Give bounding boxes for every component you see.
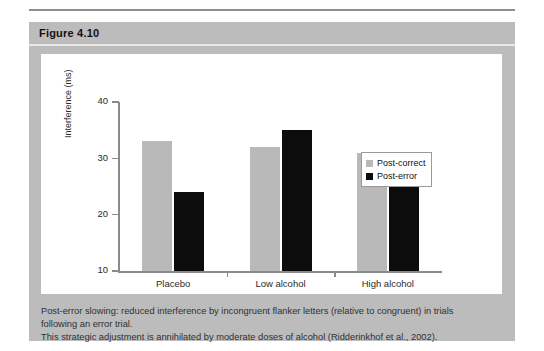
chart-panel: Interference (ms) 10203040 PlaceboLow al…	[41, 54, 502, 294]
y-tick-20: 20	[112, 214, 119, 216]
legend-swatch-post-error-icon	[366, 173, 373, 180]
bar-group-low-alcohol	[250, 102, 312, 271]
chart-legend: Post-correct Post-error	[361, 152, 432, 187]
bar-group-placebo	[142, 102, 204, 271]
legend-item-post-correct: Post-correct	[366, 157, 426, 169]
category-label-high-alcohol: High alcohol	[334, 278, 441, 289]
caption-line-2: following an error trial.	[41, 318, 503, 331]
category-label-placebo: Placebo	[120, 278, 227, 289]
y-tick-label-20: 20	[97, 208, 108, 219]
y-tick-30: 30	[112, 158, 119, 160]
y-tick-40: 40	[112, 101, 119, 103]
figure-box: Figure 4.10 Interference (ms) 10203040 P…	[29, 22, 515, 341]
x-axis-line	[118, 271, 442, 273]
x-tick-2	[334, 271, 336, 277]
figure-caption: Post-error slowing: reduced interference…	[41, 305, 503, 344]
figure-header: Figure 4.10	[29, 22, 515, 44]
legend-swatch-post-correct-icon	[366, 160, 373, 167]
caption-line-3: This strategic adjustment is annihilated…	[41, 331, 503, 344]
plot-wrapper: Interference (ms) 10203040 PlaceboLow al…	[41, 54, 502, 294]
x-tick-1	[227, 271, 229, 277]
header-separator	[29, 44, 515, 46]
legend-label-post-correct: Post-correct	[377, 157, 426, 169]
bar-post-error-placebo	[174, 192, 204, 271]
y-tick-label-30: 30	[97, 152, 108, 163]
figure-page: Figure 4.10 Interference (ms) 10203040 P…	[0, 0, 544, 351]
bar-post-error-low-alcohol	[282, 130, 312, 271]
page-top-rule	[29, 9, 515, 11]
y-tick-10: 10	[112, 270, 119, 272]
caption-line-1: Post-error slowing: reduced interference…	[41, 305, 503, 318]
bar-post-correct-placebo	[142, 141, 172, 271]
y-tick-label-10: 10	[97, 264, 108, 275]
y-axis-title: Interference (ms)	[63, 69, 73, 138]
legend-label-post-error: Post-error	[377, 170, 417, 182]
legend-item-post-error: Post-error	[366, 170, 426, 182]
y-tick-label-40: 40	[97, 95, 108, 106]
figure-number-label: Figure 4.10	[39, 27, 99, 39]
bar-post-correct-low-alcohol	[250, 147, 280, 271]
category-label-low-alcohol: Low alcohol	[227, 278, 334, 289]
